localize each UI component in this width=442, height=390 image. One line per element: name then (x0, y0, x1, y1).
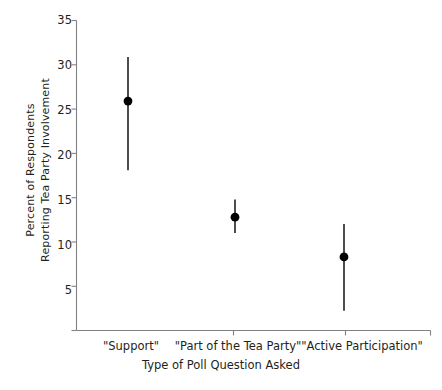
data-point-marker-1 (231, 213, 240, 222)
x-tick-label-support: "Support" (103, 340, 159, 352)
data-point-group-1 (231, 200, 240, 233)
y-tick-marks (72, 21, 77, 331)
data-point-group-2 (340, 224, 349, 311)
cut-off-caption (0, 380, 442, 390)
data-series-tea-party-involvement (124, 57, 349, 311)
x-tick-marks (234, 331, 431, 336)
plot-area (0, 0, 442, 390)
data-point-marker-2 (340, 253, 349, 262)
x-tick-label-active-participation: "Active Participation" (301, 340, 423, 352)
x-axis-title: Type of Poll Question Asked (0, 358, 442, 372)
figure-container: Percent of Respondents Reporting Tea Par… (0, 0, 442, 390)
data-point-group-0 (124, 57, 133, 170)
x-tick-label-part-of-tea-party: "Part of the Tea Party" (175, 340, 302, 352)
data-point-marker-0 (124, 97, 133, 106)
